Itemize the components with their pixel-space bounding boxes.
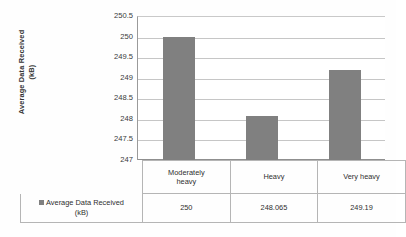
category-label-cell: Moderately heavy xyxy=(143,161,231,194)
y-tick-label: 248.5 xyxy=(93,93,133,102)
legend-cell: Average Data Received(kB) xyxy=(21,194,143,223)
y-tick-label: 249 xyxy=(93,73,133,82)
y-axis-title: Average Data Received (kB) xyxy=(17,7,47,137)
category-label-cell: Heavy xyxy=(230,161,318,194)
value-cell: 250 xyxy=(143,194,231,223)
value-cell: 248.065 xyxy=(230,194,318,223)
category-label-cell: Very heavy xyxy=(318,161,406,194)
data-table: Moderately heavy Heavy Very heavy Averag… xyxy=(20,160,406,223)
plot-area xyxy=(137,16,385,160)
legend-label-line1: Average Data Received xyxy=(46,198,124,207)
bar-very-heavy xyxy=(329,70,361,160)
legend-entry: Average Data Received(kB) xyxy=(39,198,124,218)
y-tick-label: 248 xyxy=(93,114,133,123)
bars-layer xyxy=(138,17,385,160)
y-tick-label: 247.5 xyxy=(93,134,133,143)
y-tick-label: 250.5 xyxy=(93,11,133,20)
square-swatch-icon xyxy=(39,200,44,205)
value-cell: 249.19 xyxy=(318,194,406,223)
table-row-values: Average Data Received(kB) 250 248.065 24… xyxy=(21,194,406,223)
bar-moderately-heavy xyxy=(163,37,195,160)
y-axis-tick-labels: 250.5 250 249.5 249 248.5 248 247.5 247 xyxy=(96,11,137,165)
bar-heavy xyxy=(246,116,278,160)
table-row-categories: Moderately heavy Heavy Very heavy xyxy=(21,161,406,194)
y-tick-label: 250 xyxy=(93,32,133,41)
legend-label-line2: (kB) xyxy=(75,208,89,217)
table-cell-empty xyxy=(21,161,143,194)
y-tick-label: 249.5 xyxy=(93,52,133,61)
